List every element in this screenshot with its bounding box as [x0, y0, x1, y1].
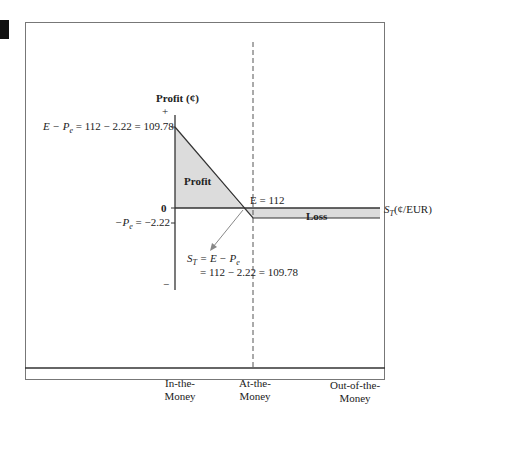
- arrow-head-icon: [210, 243, 217, 251]
- loss-region-label: Loss: [306, 211, 327, 222]
- profit-region-label: Profit: [184, 176, 211, 187]
- zero-label: 0: [161, 203, 167, 214]
- at-the-money-label: At-the-Money: [230, 377, 280, 403]
- plus-sign: +: [162, 106, 168, 117]
- strike-label: E = 112: [250, 195, 285, 206]
- neg-premium-label: −Pe = −2.22: [115, 217, 170, 231]
- breakeven-arrow: [213, 210, 243, 247]
- in-the-money-label: In-the-Money: [155, 377, 205, 403]
- y-axis-title: Profit (¢): [156, 93, 199, 104]
- intercept-label: E − Pe = 112 − 2.22 = 109.78: [43, 121, 174, 135]
- minus-sign: −: [163, 279, 169, 290]
- out-of-the-money-label: Out-of-the-Money: [320, 379, 390, 405]
- x-axis-title: ST(¢/EUR): [384, 204, 432, 218]
- breakeven-value: = 112 − 2.22 = 109.78: [200, 267, 298, 278]
